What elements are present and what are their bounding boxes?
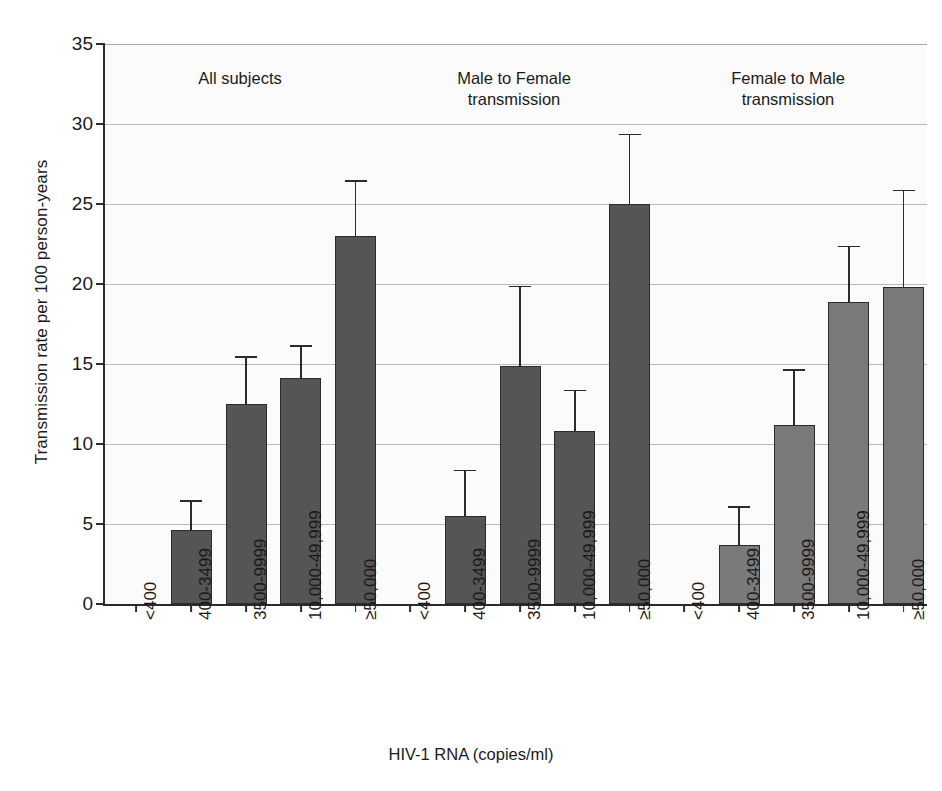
y-tick-label-5: 5 [45, 513, 105, 535]
x-tick-mark-g2-c5 [629, 604, 631, 612]
x-tick-mark-g3-c4 [848, 604, 850, 612]
error-bar-g2-c2 [464, 470, 466, 516]
error-bar-g1-c4 [300, 345, 302, 379]
y-axis-title: Transmission rate per 100 person-years [32, 82, 52, 542]
x-axis-label-g1-c2: 400-3499 [196, 548, 216, 620]
x-tick-mark-g1-c4 [300, 604, 302, 612]
error-cap-g1-c2 [180, 500, 202, 502]
x-axis-label-g2-c4: 10,000-49,999 [580, 510, 600, 620]
plot-area: 05101520253035 [103, 44, 927, 606]
y-tick-label-15: 15 [45, 353, 105, 375]
error-cap-g3-c3 [783, 369, 805, 371]
error-bar-g3-c5 [903, 190, 905, 288]
x-tick-mark-g1-c3 [245, 604, 247, 612]
x-axis-label-g3-c4: 10,000-49,999 [854, 510, 874, 620]
chart-figure: Transmission rate per 100 person-years 0… [0, 0, 942, 791]
y-tick-label-0: 0 [45, 593, 105, 615]
x-tick-mark-g2-c1 [409, 604, 411, 612]
x-tick-mark-g1-c1 [135, 604, 137, 612]
x-axis-label-g3-c1: <400 [689, 582, 709, 620]
bar-g2-c5 [609, 204, 650, 604]
plot-inner [105, 44, 927, 604]
error-cap-g2-c3 [509, 286, 531, 288]
y-tick-label-25: 25 [45, 193, 105, 215]
x-axis-label-g3-c3: 3500-9999 [799, 539, 819, 620]
y-tick-label-20: 20 [45, 273, 105, 295]
error-bar-g2-c3 [519, 286, 521, 366]
error-cap-g2-c5 [619, 134, 641, 136]
x-axis-title: HIV-1 RNA (copies/ml) [0, 745, 942, 764]
error-bar-g1-c3 [245, 356, 247, 404]
x-tick-mark-g3-c5 [903, 604, 905, 612]
error-bar-g3-c2 [738, 506, 740, 544]
gridline-25 [105, 204, 927, 205]
x-tick-mark-g2-c3 [519, 604, 521, 612]
error-cap-g1-c3 [235, 356, 257, 358]
gridline-15 [105, 364, 927, 365]
gridline-30 [105, 124, 927, 125]
error-bar-g3-c3 [793, 369, 795, 425]
bar-g3-c5 [883, 287, 924, 604]
error-cap-g1-c5 [345, 180, 367, 182]
error-cap-g1-c4 [290, 345, 312, 347]
error-bar-g2-c4 [574, 390, 576, 432]
x-axis-label-g1-c1: <400 [141, 582, 161, 620]
x-axis-label-g3-c2: 400-3499 [744, 548, 764, 620]
x-tick-mark-g2-c4 [574, 604, 576, 612]
gridline-20 [105, 284, 927, 285]
x-axis-label-g1-c4: 10,000-49,999 [306, 510, 326, 620]
error-bar-g1-c5 [355, 180, 357, 236]
group-heading-3: Female to Male transmission [651, 68, 925, 110]
y-tick-label-35: 35 [45, 33, 105, 55]
x-tick-mark-g1-c2 [190, 604, 192, 612]
bar-g1-c5 [335, 236, 376, 604]
error-cap-g3-c2 [728, 506, 750, 508]
y-tick-label-30: 30 [45, 113, 105, 135]
gridline-35 [105, 44, 927, 45]
error-bar-g1-c2 [190, 500, 192, 530]
x-tick-mark-g3-c2 [738, 604, 740, 612]
error-cap-g2-c2 [454, 470, 476, 472]
y-tick-label-10: 10 [45, 433, 105, 455]
x-axis-label-g1-c3: 3500-9999 [251, 539, 271, 620]
error-cap-g2-c4 [564, 390, 586, 392]
group-heading-1: All subjects [103, 68, 377, 89]
error-bar-g2-c5 [629, 134, 631, 204]
x-axis-label-g1-c5: ≥50,000 [361, 559, 381, 620]
x-axis-label-g2-c1: <400 [415, 582, 435, 620]
x-axis-label-g2-c2: 400-3499 [470, 548, 490, 620]
error-cap-g3-c5 [893, 190, 915, 192]
x-axis-label-g2-c5: ≥50,000 [635, 559, 655, 620]
error-bar-g3-c4 [848, 246, 850, 302]
x-axis-label-g3-c5: ≥50,000 [909, 559, 929, 620]
group-heading-2: Male to Female transmission [377, 68, 651, 110]
x-axis-label-g2-c3: 3500-9999 [525, 539, 545, 620]
x-tick-mark-g1-c5 [355, 604, 357, 612]
error-cap-g3-c4 [838, 246, 860, 248]
x-tick-mark-g3-c1 [683, 604, 685, 612]
x-tick-mark-g2-c2 [464, 604, 466, 612]
x-tick-mark-g3-c3 [793, 604, 795, 612]
